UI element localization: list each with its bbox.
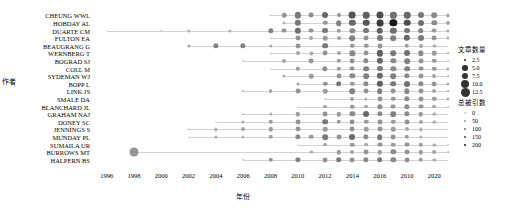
data-point-bubble[interactable]	[350, 97, 354, 101]
data-point-bubble[interactable]	[310, 52, 313, 55]
data-point-bubble[interactable]	[377, 58, 383, 64]
data-point-bubble[interactable]	[242, 159, 244, 161]
data-point-bubble[interactable]	[404, 20, 411, 27]
data-point-bubble[interactable]	[377, 134, 383, 140]
data-point-bubble[interactable]	[336, 81, 342, 87]
data-point-bubble[interactable]	[432, 150, 436, 154]
data-point-bubble[interactable]	[363, 58, 368, 63]
data-point-bubble[interactable]	[446, 67, 449, 70]
data-point-bubble[interactable]	[268, 135, 272, 139]
data-point-bubble[interactable]	[391, 35, 397, 41]
data-point-bubble[interactable]	[405, 157, 410, 162]
data-point-bubble[interactable]	[364, 143, 368, 147]
data-point-bubble[interactable]	[364, 127, 368, 131]
data-point-bubble[interactable]	[187, 44, 190, 47]
data-point-bubble[interactable]	[363, 111, 369, 117]
data-point-bubble[interactable]	[391, 66, 396, 71]
data-point-bubble[interactable]	[377, 150, 381, 154]
data-point-bubble[interactable]	[295, 134, 300, 139]
data-point-bubble[interactable]	[432, 12, 438, 18]
data-point-bubble[interactable]	[404, 12, 411, 19]
data-point-bubble[interactable]	[349, 134, 355, 140]
data-point-bubble[interactable]	[336, 74, 341, 79]
data-point-bubble[interactable]	[337, 66, 341, 70]
data-point-bubble[interactable]	[404, 35, 410, 41]
data-point-bubble[interactable]	[447, 75, 449, 77]
data-point-bubble[interactable]	[295, 12, 301, 18]
data-point-bubble[interactable]	[376, 27, 383, 34]
data-point-bubble[interactable]	[282, 59, 286, 63]
data-point-bubble[interactable]	[269, 112, 272, 115]
data-point-bubble[interactable]	[323, 36, 327, 40]
data-point-bubble[interactable]	[268, 28, 273, 33]
data-point-bubble[interactable]	[447, 106, 449, 108]
data-point-bubble[interactable]	[350, 81, 354, 85]
data-point-bubble[interactable]	[350, 88, 356, 94]
data-point-bubble[interactable]	[364, 119, 368, 123]
data-point-bubble[interactable]	[404, 111, 409, 116]
data-point-bubble[interactable]	[350, 119, 355, 124]
data-point-bubble[interactable]	[446, 97, 449, 100]
data-point-bubble[interactable]	[214, 128, 217, 131]
data-point-bubble[interactable]	[350, 111, 355, 116]
data-point-bubble[interactable]	[377, 35, 383, 41]
data-point-bubble[interactable]	[350, 104, 354, 108]
data-point-bubble[interactable]	[432, 74, 436, 78]
data-point-bubble[interactable]	[377, 81, 383, 87]
data-point-bubble[interactable]	[336, 157, 342, 163]
data-point-bubble[interactable]	[363, 73, 369, 79]
data-point-bubble[interactable]	[418, 157, 422, 161]
data-point-bubble[interactable]	[309, 74, 313, 78]
data-point-bubble[interactable]	[337, 13, 341, 17]
data-point-bubble[interactable]	[363, 20, 370, 27]
data-point-bubble[interactable]	[336, 134, 341, 139]
data-point-bubble[interactable]	[405, 43, 409, 47]
data-point-bubble[interactable]	[432, 28, 437, 33]
data-point-bubble[interactable]	[323, 21, 327, 25]
data-point-bubble[interactable]	[432, 51, 436, 55]
data-point-bubble[interactable]	[377, 119, 382, 124]
data-point-bubble[interactable]	[432, 36, 437, 41]
data-point-bubble[interactable]	[337, 150, 341, 154]
data-point-bubble[interactable]	[391, 157, 396, 162]
data-point-bubble[interactable]	[418, 89, 423, 94]
data-point-bubble[interactable]	[404, 58, 410, 64]
data-point-bubble[interactable]	[418, 35, 424, 41]
data-point-bubble[interactable]	[433, 120, 436, 123]
data-point-bubble[interactable]	[446, 82, 449, 85]
data-point-bubble[interactable]	[418, 28, 424, 34]
data-point-bubble[interactable]	[391, 81, 397, 87]
data-point-bubble[interactable]	[269, 44, 272, 47]
data-point-bubble[interactable]	[160, 30, 162, 32]
data-point-bubble[interactable]	[323, 127, 327, 131]
data-point-bubble[interactable]	[241, 43, 246, 48]
data-point-bubble[interactable]	[418, 150, 422, 154]
data-point-bubble[interactable]	[418, 112, 422, 116]
data-point-bubble[interactable]	[295, 36, 300, 41]
data-point-bubble[interactable]	[447, 53, 449, 55]
data-point-bubble[interactable]	[350, 51, 355, 56]
data-point-bubble[interactable]	[391, 89, 396, 94]
data-point-bubble[interactable]	[405, 119, 410, 124]
data-point-bubble[interactable]	[322, 66, 327, 71]
data-point-bubble[interactable]	[377, 157, 383, 163]
data-point-bubble[interactable]	[391, 142, 395, 146]
data-point-bubble[interactable]	[297, 144, 299, 146]
data-point-bubble[interactable]	[350, 157, 355, 162]
data-point-bubble[interactable]	[404, 66, 410, 72]
data-point-bubble[interactable]	[309, 36, 313, 40]
data-point-bubble[interactable]	[377, 73, 383, 79]
data-point-bubble[interactable]	[418, 74, 423, 79]
data-point-bubble[interactable]	[376, 19, 383, 26]
data-point-bubble[interactable]	[242, 120, 245, 123]
data-point-bubble[interactable]	[446, 29, 449, 32]
data-point-bubble[interactable]	[363, 134, 368, 139]
data-point-bubble[interactable]	[363, 28, 369, 34]
data-point-bubble[interactable]	[295, 157, 300, 162]
data-point-bubble[interactable]	[270, 53, 272, 55]
data-point-bubble[interactable]	[377, 111, 382, 116]
data-point-bubble[interactable]	[418, 96, 423, 101]
data-point-bubble[interactable]	[418, 81, 423, 86]
data-point-bubble[interactable]	[433, 158, 436, 161]
data-point-bubble[interactable]	[364, 51, 369, 56]
